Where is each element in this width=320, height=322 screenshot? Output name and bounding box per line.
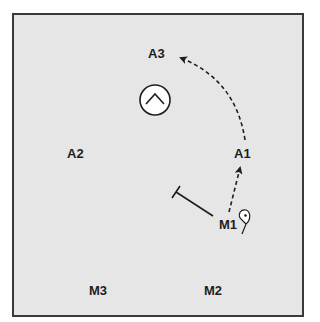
player-m1: M1 xyxy=(219,218,237,231)
ball-pin-icon xyxy=(239,210,249,234)
player-a1: A1 xyxy=(234,147,251,160)
screen-icon xyxy=(172,186,213,216)
player-m3: M3 xyxy=(89,284,107,297)
movement-arrow-a1-to-a3 xyxy=(181,58,245,140)
player-m2: M2 xyxy=(204,284,222,297)
movement-arrow-m1-to-a1 xyxy=(229,168,240,212)
player-a3: A3 xyxy=(148,47,165,60)
goal-icon xyxy=(140,85,170,115)
player-a2: A2 xyxy=(67,147,84,160)
